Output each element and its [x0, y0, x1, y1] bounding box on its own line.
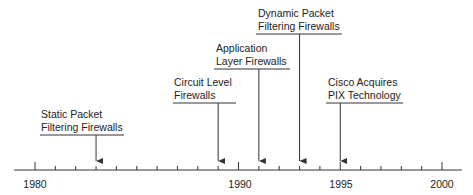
event-label-line1: Application [216, 42, 287, 55]
event-label-line2: Firewalls [174, 89, 232, 102]
event-label-dynamic-packet-filtering: Dynamic Packet Filtering Firewalls [258, 7, 340, 33]
event-label-line2: Filtering Firewalls [41, 121, 123, 134]
event-label-line1: Cisco Acquires [328, 76, 401, 89]
event-label-line1: Static Packet [41, 108, 123, 121]
axis-ticks [35, 162, 442, 170]
event-label-line1: Circuit Level [174, 76, 232, 89]
timeline-diagram: 1980 1990 1995 2000 Static Packet Filter… [0, 0, 473, 195]
axis-label-1980: 1980 [23, 178, 46, 190]
axis-label-1995: 1995 [329, 178, 352, 190]
axis-label-2000: 2000 [430, 178, 453, 190]
event-label-line2: PIX Technology [328, 89, 401, 102]
event-label-static-packet-filtering: Static Packet Filtering Firewalls [41, 108, 123, 134]
event-label-line2: Layer Firewalls [216, 55, 287, 68]
event-label-line1: Dynamic Packet [258, 7, 340, 20]
event-label-cisco-pix: Cisco Acquires PIX Technology [328, 76, 401, 102]
event-label-line2: Filtering Firewalls [258, 20, 340, 33]
axis-label-1990: 1990 [228, 178, 251, 190]
event-label-circuit-level: Circuit Level Firewalls [174, 76, 232, 102]
event-label-application-layer: Application Layer Firewalls [216, 42, 287, 68]
timeline-graphics [0, 0, 473, 195]
